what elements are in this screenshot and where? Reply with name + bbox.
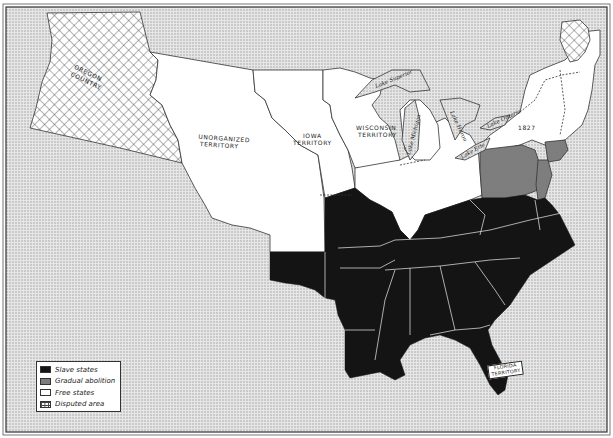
swatch-disputed-icon bbox=[40, 401, 51, 408]
legend-item-gradual: Gradual abolition bbox=[40, 376, 117, 388]
label-year-1827: 1827 bbox=[518, 124, 536, 131]
swatch-slave-icon bbox=[40, 366, 51, 373]
label-iowa-line2: TERRITORY bbox=[292, 139, 332, 146]
swatch-gradual-icon bbox=[40, 378, 51, 385]
map-legend: Slave states Gradual abolition Free stat… bbox=[36, 361, 121, 412]
label-wisconsin-line1: WISCONSIN bbox=[356, 124, 396, 131]
label-iowa-line1: IOWA bbox=[303, 132, 322, 139]
legend-item-slave: Slave states bbox=[40, 364, 117, 376]
map-figure: OREGON COUNTRY UNORGANIZED TERRITORY IOW… bbox=[0, 0, 613, 438]
legend-item-free: Free states bbox=[40, 387, 117, 399]
legend-item-disputed: Disputed area bbox=[40, 399, 117, 411]
swatch-free-icon bbox=[40, 389, 51, 396]
region-gradual-abolition-pa bbox=[480, 145, 540, 198]
label-wisconsin-line2: TERRITORY bbox=[357, 131, 397, 138]
